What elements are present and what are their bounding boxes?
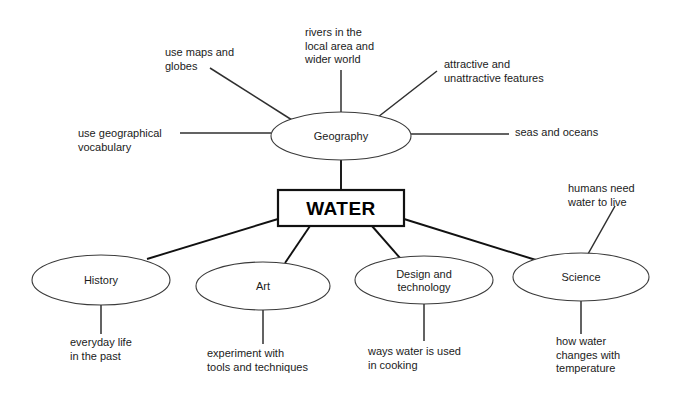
node-label-art: Art — [256, 280, 270, 292]
node-label-geography: Geography — [314, 130, 369, 142]
water-mind-map-diagram: GeographyHistoryArtDesign andtechnologyS… — [0, 0, 685, 396]
node-geography[interactable]: Geography — [271, 112, 411, 160]
node-science[interactable]: Science — [513, 253, 649, 301]
mind-map-canvas: GeographyHistoryArtDesign andtechnologyS… — [0, 0, 685, 396]
node-label-science: Science — [561, 271, 600, 283]
leaf-note-seas-and-oceans: seas and oceans — [515, 126, 599, 138]
node-history[interactable]: History — [32, 255, 170, 305]
leaf-note-humans-need-water-to-live: humans needwater to live — [567, 182, 635, 208]
node-art[interactable]: Art — [196, 262, 330, 310]
node-label-design-and-technology: Design andtechnology — [396, 268, 452, 293]
node-design-and-technology[interactable]: Design andtechnology — [355, 256, 493, 304]
center-node-water-label: WATER — [306, 198, 376, 219]
center-node-group: WATER — [278, 190, 404, 226]
node-label-history: History — [84, 274, 119, 286]
